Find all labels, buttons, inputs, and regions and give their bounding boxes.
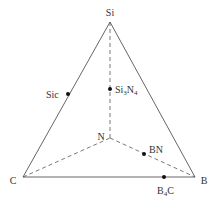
point-b4c xyxy=(162,175,166,179)
vertex-label-n: N xyxy=(97,131,104,142)
label-si3n4-n: N xyxy=(127,84,134,95)
vertex-label-c: C xyxy=(10,175,17,186)
label-b4c-c: C xyxy=(167,185,174,196)
label-b4c: B4C xyxy=(157,185,174,198)
label-si3n4-si: Si xyxy=(115,84,124,95)
edge-c-n xyxy=(23,138,110,177)
label-sic: Sic xyxy=(46,89,59,100)
point-si3n4 xyxy=(108,87,112,91)
label-si3n4-sub4: 4 xyxy=(134,89,138,97)
edge-si-c xyxy=(23,22,110,177)
label-si3n4: Si3N4 xyxy=(115,84,138,97)
label-bn: BN xyxy=(149,144,163,155)
point-sic xyxy=(66,92,70,96)
vertex-label-b: B xyxy=(201,175,208,186)
point-bn xyxy=(142,152,146,156)
vertex-label-si: Si xyxy=(106,7,115,18)
si-c-b-n-phase-diagram: Si C B N Sic Si3N4 BN B4C xyxy=(0,0,224,200)
